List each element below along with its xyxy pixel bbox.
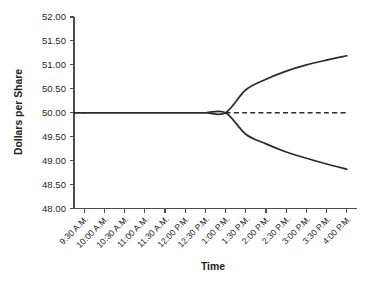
series-line-upper-branch <box>84 56 347 115</box>
y-tick-label: 49.50 <box>42 131 66 142</box>
y-tick-label: 48.00 <box>42 203 66 214</box>
y-tick-label: 50.00 <box>42 107 66 118</box>
y-axis-title: Dollars per Share <box>13 69 24 155</box>
chart-container: 52.0051.5051.0050.5050.0049.5049.0048.50… <box>0 0 374 283</box>
y-tick-label: 51.50 <box>42 35 66 46</box>
x-tick-group <box>84 209 347 213</box>
y-tick-label: 51.00 <box>42 59 66 70</box>
y-tick-label: 49.00 <box>42 155 66 166</box>
series-line-lower-branch <box>84 111 347 169</box>
line-chart: 52.0051.5051.0050.5050.0049.5049.0048.50… <box>0 0 374 283</box>
y-tick-label: 48.50 <box>42 179 66 190</box>
y-tick-label-group: 52.0051.5051.0050.5050.0049.5049.0048.50… <box>42 11 66 214</box>
x-axis-title: Time <box>201 261 225 272</box>
series-group <box>74 56 347 169</box>
y-tick-label: 52.00 <box>42 11 66 22</box>
x-tick-label-group: 9:30 A.M.10:00 A.M.10:30 A.M.11:00 A.M.1… <box>57 214 353 250</box>
y-tick-label: 50.50 <box>42 83 66 94</box>
